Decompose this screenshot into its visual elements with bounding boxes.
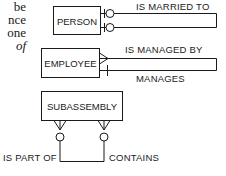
optional-many-symbol-left-icon xyxy=(54,121,66,142)
optional-one-symbol-icon xyxy=(105,9,115,18)
person-entity-label: PERSON xyxy=(57,16,97,27)
management-relationship-line xyxy=(100,59,217,71)
assembly-relationship-line xyxy=(60,141,104,162)
is-part-of-label: IS PART OF xyxy=(3,152,57,163)
is-married-to-label: IS MARRIED TO xyxy=(136,1,210,12)
is-managed-by-label: IS MANAGED BY xyxy=(125,44,203,55)
optional-many-symbol-right-icon xyxy=(98,121,110,142)
manages-label: MANAGES xyxy=(136,73,185,84)
diagram-graphics: PERSON EMPLOYEE SUBASSEMBLY xyxy=(0,0,226,176)
employee-entity-label: EMPLOYEE xyxy=(44,58,96,69)
optional-one-symbol-icon xyxy=(105,23,115,32)
er-diagram: be nce one of xyxy=(0,0,226,176)
subassembly-entity-label: SUBASSEMBLY xyxy=(47,101,118,112)
marriage-relationship-line xyxy=(100,14,217,28)
contains-label: CONTAINS xyxy=(109,152,159,163)
